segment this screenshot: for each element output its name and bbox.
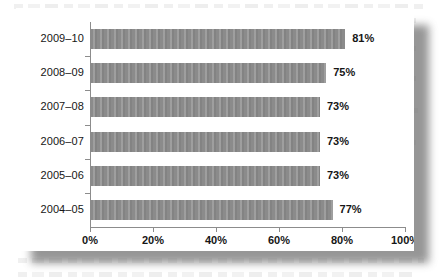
bar [90, 63, 326, 83]
x-axis-tick [153, 227, 154, 232]
x-axis-tick [342, 227, 343, 232]
category-label: 2004–05 [40, 203, 84, 215]
value-label: 77% [340, 203, 362, 215]
x-axis-tick-label: 20% [142, 234, 164, 246]
bar [90, 166, 320, 186]
category-label: 2006–07 [40, 135, 84, 147]
x-axis-tick-label: 80% [331, 234, 353, 246]
value-label: 81% [352, 32, 374, 44]
category-label: 2007–08 [40, 100, 84, 112]
value-label: 75% [333, 66, 355, 78]
value-label: 73% [327, 135, 349, 147]
x-axis-tick [405, 227, 406, 232]
value-label: 73% [327, 100, 349, 112]
y-axis-tick [85, 193, 91, 194]
x-axis-tick-label: 100% [391, 234, 414, 246]
x-axis-tick-label: 40% [205, 234, 227, 246]
y-axis-tick [85, 159, 91, 160]
x-axis-line [90, 227, 405, 228]
y-axis-tick [85, 125, 91, 126]
x-axis-tick-label: 60% [268, 234, 290, 246]
x-axis-tick [279, 227, 280, 232]
category-label: 2005–06 [40, 169, 84, 181]
bar-chart-figure: 2009–102008–092007–082006–072005–062004–… [16, 8, 414, 251]
category-label: 2009–10 [40, 32, 84, 44]
x-axis-tick [216, 227, 217, 232]
plot-area: 2009–102008–092007–082006–072005–062004–… [16, 8, 414, 251]
bar [90, 200, 333, 220]
bar [90, 97, 320, 117]
y-axis-tick [85, 90, 91, 91]
x-axis-tick-label: 0% [82, 234, 98, 246]
value-label: 73% [327, 169, 349, 181]
y-axis-tick [85, 56, 91, 57]
category-label: 2008–09 [40, 66, 84, 78]
bar [90, 132, 320, 152]
bar [90, 29, 345, 49]
x-axis-tick [90, 227, 91, 232]
